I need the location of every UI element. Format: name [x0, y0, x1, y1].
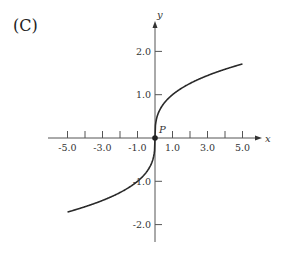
x-tick-label: 5.0: [235, 142, 250, 153]
x-tick-label: -1.0: [128, 142, 146, 153]
x-tick-label: 3.0: [200, 142, 215, 153]
x-tick-label: -3.0: [93, 142, 111, 153]
chart: -5.0-3.0-1.01.03.05.0-2.0-1.01.02.0xyP: [0, 0, 284, 258]
y-tick-label: 2.0: [136, 46, 151, 57]
x-axis-arrow-icon: [255, 136, 262, 141]
point-p-label: P: [158, 124, 166, 135]
y-tick-label: 1.0: [136, 89, 151, 100]
y-axis-arrow-icon: [153, 21, 158, 28]
point-p: [152, 135, 158, 141]
x-tick-label: 1.0: [165, 142, 180, 153]
y-tick-label: -1.0: [133, 176, 151, 187]
y-axis-label: y: [156, 9, 163, 20]
tick-labels: -5.0-3.0-1.01.03.05.0-2.0-1.01.02.0xyP: [58, 9, 271, 230]
x-tick-label: -5.0: [58, 142, 76, 153]
y-tick-label: -2.0: [133, 219, 151, 230]
x-axis-label: x: [265, 133, 271, 144]
